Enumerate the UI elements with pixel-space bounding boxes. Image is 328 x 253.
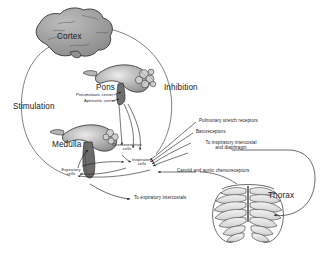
inspiratory-cells-label: Inspiratory cells (125, 158, 159, 167)
pulmonary-stretch-receptors-label: Pulmonary stretch receptors (199, 119, 258, 124)
thorax-label: Thorax (268, 192, 294, 201)
apneustic-center-label: Apneustic center (84, 99, 115, 103)
expiratory-cells-label: Expiratory cells (56, 168, 86, 177)
inhibition-label: Inhibition (164, 84, 198, 93)
to-inspiratory-intercostal-label: To inspiratory intercostal and diaphragm (193, 141, 269, 151)
baroreceptors-label: Baroreceptors (196, 130, 226, 135)
pneumotaxic-center-label: Pneumotaxic center (76, 93, 113, 97)
carotid-aortic-chemoreceptors-label: Carotid and aortic chemoreceptors (177, 169, 249, 174)
stimulation-label: Stimulation (13, 103, 55, 112)
cortex-label: Cortex (57, 33, 82, 42)
chemosensitive-cells-label: Chemosensitive cells (106, 143, 148, 152)
expiratory-cells-line2: cells (56, 172, 86, 176)
respiratory-control-diagram: Cortex Pons Medulla Thorax Stimulation I… (0, 0, 328, 253)
inspiratory-cells-line2: cells (125, 162, 159, 166)
diagram-illustration (0, 0, 328, 253)
to-expiratory-intercostals-label: To expiratory intercostals (134, 196, 186, 201)
efferent-expiratory-pathway (90, 184, 130, 199)
to-inspiratory-intercostal-line2: and diaphragm (193, 146, 269, 151)
chemosensitive-cells-line2: cells (106, 147, 148, 151)
medulla-label: Medulla (52, 141, 81, 150)
